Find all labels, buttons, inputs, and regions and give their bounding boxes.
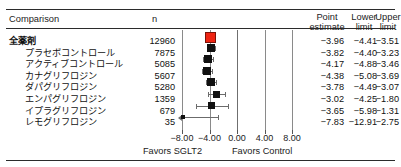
column-header-n: n (152, 14, 157, 24)
row-lower-limit: −4.40 (341, 48, 377, 60)
gridline-4 (265, 30, 266, 130)
study-marker (207, 44, 215, 52)
row-n-value: 5280 (108, 82, 175, 94)
row-lower-limit: −4.41 (341, 36, 377, 48)
ci-cap-right (213, 57, 214, 62)
study-marker (203, 67, 211, 75)
row-lower-limit: −4.49 (341, 82, 377, 94)
row-upper-limit: −3.23 (373, 48, 399, 60)
study-marker (207, 78, 215, 86)
forest-plot-figure: Comparison n Point estimate Lower limit … (0, 0, 401, 167)
row-lower-limit: −5.98 (341, 106, 377, 118)
column-header-upper-limit-line2: limit (375, 22, 401, 32)
row-label: カナグリフロジン (25, 71, 97, 83)
row-upper-limit: −2.75 (373, 117, 399, 129)
gridline-0 (237, 30, 238, 130)
row-point-estimate: −3.02 (296, 94, 344, 106)
row-upper-limit: −3.07 (373, 82, 399, 94)
row-point-estimate: −3.65 (296, 106, 344, 118)
row-point-estimate: −3.82 (296, 48, 344, 60)
row-label: レモグリフロジン (25, 117, 97, 129)
column-header-lower-limit-line1: Lower (351, 12, 376, 22)
row-lower-limit: −5.08 (341, 71, 377, 83)
ci-cap-right (216, 80, 217, 85)
row-point-estimate: −3.96 (296, 36, 344, 48)
row-label: ダパグリフロジン (25, 82, 97, 94)
ci-cap-right (218, 115, 219, 120)
row-n-value: 5085 (108, 59, 175, 71)
study-marker (213, 91, 220, 98)
row-label: イプラグリフロジン (25, 106, 106, 118)
row-lower-limit: −12.91 (341, 117, 377, 129)
row-upper-limit: −3.51 (373, 36, 399, 48)
row-point-estimate: −4.38 (296, 71, 344, 83)
ci-cap-right (225, 92, 226, 97)
forest-plot-canvas (182, 30, 292, 130)
column-header-point-estimate-line1: Point (316, 12, 337, 22)
row-n-value: 7875 (108, 48, 175, 60)
gridline-8 (292, 30, 293, 130)
study-marker (181, 115, 185, 119)
study-marker (204, 55, 212, 63)
row-label: エンパグリフロジン (25, 94, 106, 106)
column-header-upper-limit: Upper limit (375, 12, 401, 32)
row-point-estimate: −3.78 (296, 82, 344, 94)
row-point-estimate: −7.83 (296, 117, 344, 129)
row-n-value: 5607 (108, 71, 175, 83)
row-n-value: 12960 (108, 36, 175, 48)
column-header-upper-limit-line1: Upper (375, 12, 400, 22)
favors-left-label: Favors SGLT2 (143, 146, 202, 156)
favors-right-label: Favors Control (232, 146, 292, 156)
row-upper-limit: −1.80 (373, 94, 399, 106)
row-lower-limit: −4.88 (341, 59, 377, 71)
ci-cap-right (215, 46, 216, 51)
ci-cap-left (208, 92, 209, 97)
row-label: 全薬剤 (9, 36, 36, 48)
confidence-interval-line (182, 117, 218, 118)
row-n-value: 1359 (108, 94, 175, 106)
row-label: プラセボコントロール (25, 48, 115, 60)
rule-bottom (6, 160, 395, 161)
row-n-value: 679 (108, 106, 175, 118)
ci-cap-right (212, 69, 213, 74)
x-axis-tick-label: 8.00 (276, 133, 308, 143)
row-upper-limit: −3.46 (373, 59, 399, 71)
ci-cap-right (228, 104, 229, 109)
row-n-value: 35 (108, 117, 175, 129)
row-point-estimate: −4.17 (296, 59, 344, 71)
rule-top (6, 9, 395, 10)
row-upper-limit: −1.31 (373, 106, 399, 118)
column-header-comparison: Comparison (9, 14, 59, 24)
ci-cap-left (196, 104, 197, 109)
study-marker (208, 102, 215, 109)
column-header-point-estimate-line2: estimate (305, 22, 349, 32)
row-lower-limit: −4.25 (341, 94, 377, 106)
row-upper-limit: −3.69 (373, 71, 399, 83)
summary-marker (205, 32, 216, 43)
column-header-point-estimate: Point estimate (305, 12, 349, 32)
